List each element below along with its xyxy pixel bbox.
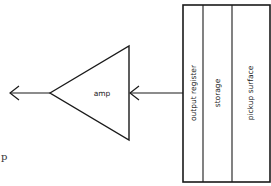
output-arrow xyxy=(10,86,50,100)
region-label-storage: storage xyxy=(213,78,222,107)
amplifier-label: amp xyxy=(94,89,111,98)
input-arrow xyxy=(130,86,183,100)
region-label-output-register: output register xyxy=(189,64,198,121)
diagram-canvas: amp output register storage pickup surfa… xyxy=(0,0,271,186)
region-label-pickup-surface: pickup surface xyxy=(246,65,255,120)
stray-caption-letter: p xyxy=(1,151,7,162)
amplifier-triangle: amp xyxy=(50,46,129,140)
